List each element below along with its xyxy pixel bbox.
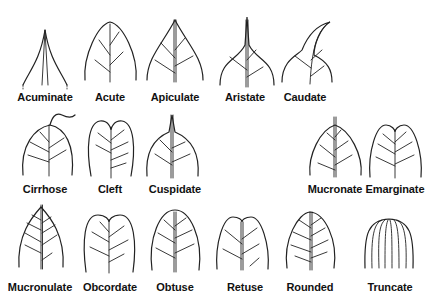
label-acute: Acute [95,91,125,103]
label-cleft: Cleft [98,183,122,195]
leaf-mucronulate [17,205,65,273]
label-retuse: Retuse [227,281,263,293]
leaf-acute [83,20,138,90]
leaf-obcordate [82,212,137,274]
leaf-retuse [215,214,270,272]
label-caudate: Caudate [284,91,327,103]
leaf-caudate [280,20,340,90]
leaf-apiculate [145,18,205,90]
label-emarginate: Emarginate [366,183,425,195]
leaf-acuminate [20,25,70,90]
leaf-mucronate [308,115,363,180]
leaf-rounded [283,210,338,272]
leaf-emarginate [368,122,423,180]
leaf-cuspidate [145,110,200,180]
label-mucronulate: Mucronulate [8,281,72,293]
label-truncate: Truncate [367,281,412,293]
leaf-cirrhose [20,110,75,180]
label-aristate: Aristate [225,91,265,103]
label-apiculate: Apiculate [151,91,200,103]
leaf-cleft [86,118,136,180]
label-cuspidate: Cuspidate [149,183,201,195]
label-cirrhose: Cirrhose [23,183,67,195]
label-rounded: Rounded [287,281,334,293]
leaf-truncate [362,214,417,272]
label-obtuse: Obtuse [156,281,193,293]
label-acuminate: Acuminate [17,91,72,103]
leaf-obtuse [148,208,203,274]
label-mucronate: Mucronate [308,183,363,195]
leaf-aristate [218,15,276,90]
label-obcordate: Obcordate [83,281,137,293]
